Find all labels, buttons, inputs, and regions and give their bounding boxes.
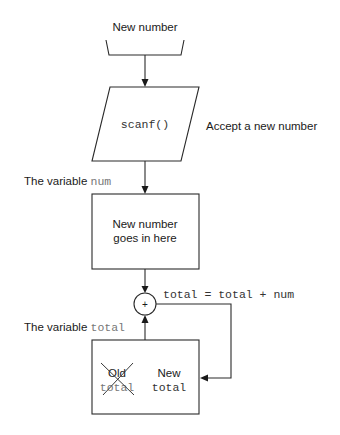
adder-plus-icon: +: [142, 299, 148, 310]
arrow-total-to-adder: [142, 315, 149, 340]
num-variable-label: The variable num: [24, 175, 111, 188]
input-shape: [106, 40, 184, 55]
arrow-num-to-adder: [142, 269, 149, 293]
arrow-input-to-scanf: [142, 55, 149, 87]
scanf-label: scanf(): [121, 118, 169, 131]
num-variable-prefix: The variable: [24, 175, 90, 187]
num-variable-name: num: [90, 175, 111, 188]
scanf-note: Accept a new number: [206, 120, 317, 132]
new-total-value: total: [152, 381, 187, 394]
equation-label: total = total + num: [163, 288, 294, 301]
old-total-value: total: [100, 381, 135, 394]
new-word: New: [157, 367, 181, 379]
total-variable-prefix: The variable: [24, 321, 90, 333]
num-box-line2: goes in here: [113, 232, 176, 244]
total-variable-label: The variable total: [24, 321, 125, 334]
flowchart: New number scanf() Accept a new number T…: [0, 0, 340, 435]
num-box-line1: New number: [112, 218, 177, 230]
total-variable-name: total: [90, 321, 125, 334]
input-label: New number: [112, 21, 177, 33]
arrow-scanf-to-num: [142, 161, 149, 194]
